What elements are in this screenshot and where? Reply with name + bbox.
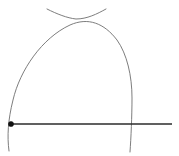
major-arc bbox=[8, 21, 132, 152]
center-point bbox=[8, 121, 13, 126]
diagram-canvas bbox=[0, 0, 179, 156]
minor-arc bbox=[47, 9, 106, 19]
construction-figure bbox=[0, 0, 179, 156]
